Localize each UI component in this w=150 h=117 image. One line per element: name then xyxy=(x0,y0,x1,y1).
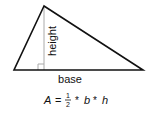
triangle-area-diagram: height base A = 1 2 * b * h xyxy=(0,0,150,117)
formula-area-symbol: A xyxy=(43,94,51,106)
formula-fraction-denominator: 2 xyxy=(66,101,70,108)
right-angle-marker xyxy=(38,64,44,70)
formula-multiply-2: * xyxy=(93,95,97,106)
formula-height-symbol: h xyxy=(102,94,108,106)
area-formula: A = 1 2 * b * h xyxy=(43,92,108,108)
formula-base-symbol: b xyxy=(84,94,90,106)
triangle-shape xyxy=(14,6,143,70)
formula-equals: = xyxy=(55,94,61,106)
formula-fraction-numerator: 1 xyxy=(66,92,70,99)
height-label: height xyxy=(46,26,58,56)
base-label: base xyxy=(58,73,82,85)
formula-multiply-1: * xyxy=(75,95,79,106)
